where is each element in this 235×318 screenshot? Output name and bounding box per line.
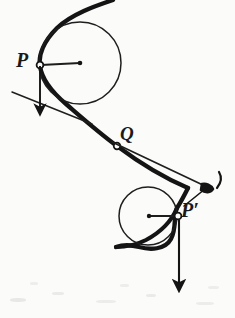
upper-circle-center-dot bbox=[78, 61, 83, 66]
scan-speck bbox=[30, 282, 38, 285]
upper-tangent-line bbox=[12, 92, 92, 124]
cycloid-upper-branch bbox=[40, 0, 188, 188]
lower-circle-center-dot bbox=[147, 214, 151, 218]
figure-canvas bbox=[0, 0, 235, 318]
scan-speck bbox=[52, 292, 64, 295]
geometry-figure: P Q P′ bbox=[0, 0, 235, 318]
cycloid-curve bbox=[40, 0, 188, 249]
scan-speck bbox=[196, 302, 214, 305]
scan-speck bbox=[120, 284, 129, 287]
scan-speck bbox=[146, 294, 156, 297]
scan-speck bbox=[96, 300, 116, 303]
upper-circle-radius bbox=[41, 63, 80, 65]
label-point-p: P bbox=[16, 50, 28, 70]
scan-speck bbox=[10, 298, 26, 302]
lower-tangent-line bbox=[112, 142, 205, 186]
label-point-p-prime: P′ bbox=[181, 200, 199, 220]
velocity-arrow-accent-mark bbox=[217, 172, 221, 188]
label-point-q: Q bbox=[120, 124, 134, 143]
scan-speck bbox=[208, 286, 219, 289]
